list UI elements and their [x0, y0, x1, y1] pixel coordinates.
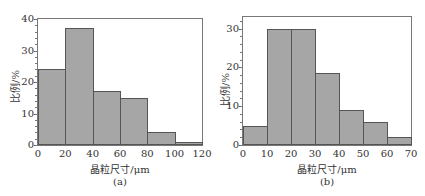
x-tick-label: 70 [399, 149, 423, 159]
y-tick-label: 30 [221, 24, 239, 34]
plot-frame-b [242, 16, 412, 146]
y-minor-tick [240, 75, 242, 76]
y-minor-tick [240, 106, 242, 107]
y-minor-tick [240, 145, 242, 146]
histogram-bar [291, 29, 316, 145]
y-minor-tick [240, 44, 242, 45]
x-tick-label: 40 [327, 149, 351, 159]
histogram-bar [315, 73, 340, 145]
x-tick-label: 20 [279, 149, 303, 159]
y-minor-tick [240, 67, 242, 68]
y-minor-tick [240, 98, 242, 99]
x-axis-title-b: 晶粒尺寸/μm [277, 161, 377, 176]
chart-panel-b: 0102030 010203040506070 比例/% 晶粒尺寸/μm (b) [0, 0, 425, 196]
y-minor-tick [240, 21, 242, 22]
x-tick-label: 0 [231, 149, 255, 159]
y-minor-tick [240, 60, 242, 61]
histogram-bar [363, 122, 388, 145]
y-minor-tick [240, 114, 242, 115]
histogram-bar [243, 126, 268, 145]
y-minor-tick [240, 91, 242, 92]
caption-b: (b) [307, 176, 347, 187]
x-tick-label: 10 [255, 149, 279, 159]
histogram-bar [339, 110, 364, 145]
x-tick-label: 30 [303, 149, 327, 159]
y-axis-title-b: 比例/% [217, 70, 232, 110]
y-minor-tick [240, 129, 242, 130]
histogram-bar [387, 137, 412, 145]
y-minor-tick [240, 83, 242, 84]
histogram-bar [267, 29, 292, 145]
x-tick-label: 60 [375, 149, 399, 159]
y-minor-tick [240, 36, 242, 37]
y-minor-tick [240, 122, 242, 123]
y-minor-tick [240, 29, 242, 30]
y-minor-tick [240, 52, 242, 53]
x-tick-label: 50 [351, 149, 375, 159]
y-minor-tick [240, 137, 242, 138]
